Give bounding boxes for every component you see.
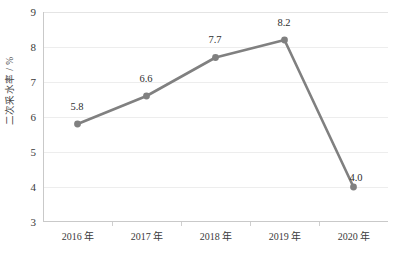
x-axis-tickmark-1 <box>181 222 182 226</box>
x-axis-tickmark-2 <box>250 222 251 226</box>
data-point-2018 <box>212 54 219 61</box>
x-axis-label-2019: 2019 年 <box>250 228 320 243</box>
y-axis-tick-label-4: 4 <box>12 181 36 193</box>
data-label-2019: 8.2 <box>269 17 299 28</box>
x-axis-tickmark-0 <box>112 222 113 226</box>
data-label-2020: 4.0 <box>341 172 371 183</box>
x-axis-label-2020: 2020 年 <box>319 228 389 243</box>
y-axis-tick-label-5: 5 <box>12 146 36 158</box>
y-axis-tick-label-9: 9 <box>12 6 36 18</box>
data-point-2017 <box>143 93 150 100</box>
data-point-2020 <box>350 184 357 191</box>
series-line <box>78 40 354 187</box>
x-axis-label-2018: 2018 年 <box>181 228 251 243</box>
data-label-2017: 6.6 <box>131 73 161 84</box>
data-label-2018: 7.7 <box>200 34 230 45</box>
x-axis-tickmark-3 <box>319 222 320 226</box>
x-axis-label-2016: 2016 年 <box>43 228 113 243</box>
x-axis-label-2017: 2017 年 <box>112 228 182 243</box>
y-axis-tick-label-3: 3 <box>12 216 36 228</box>
data-label-2016: 5.8 <box>62 101 92 112</box>
data-point-2019 <box>281 37 288 44</box>
y-axis-tick-label-8: 8 <box>12 41 36 53</box>
y-axis-tick-label-7: 7 <box>12 76 36 88</box>
y-axis-tick-label-6: 6 <box>12 111 36 123</box>
line-chart: 二次采水率 / % 9 8 7 6 5 4 3 5.8 6.6 7.7 8.2 … <box>0 0 399 258</box>
data-point-2016 <box>74 121 81 128</box>
